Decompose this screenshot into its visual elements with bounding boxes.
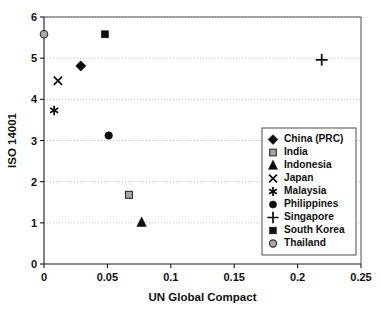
x-tick-label-5: 0.25 — [350, 271, 371, 283]
y-tick-label-2: 2 — [31, 176, 37, 188]
legend-label-china-prc: China (PRC) — [284, 133, 343, 144]
x-tick-label-3: 0.15 — [223, 271, 244, 283]
scatter-chart: 012345600.050.10.150.20.25UN Global Comp… — [0, 0, 381, 313]
legend-marker-philippines — [269, 201, 276, 208]
y-tick-label-6: 6 — [31, 11, 37, 23]
legend-marker-india — [270, 149, 277, 156]
y-tick-label-5: 5 — [31, 52, 37, 64]
legend-label-south-korea: South Korea — [284, 224, 345, 235]
legend-label-thailand: Thailand — [284, 237, 326, 248]
data-point-thailand — [40, 31, 48, 39]
data-point-india — [125, 191, 132, 198]
x-tick-label-0: 0 — [41, 271, 47, 283]
data-point-singapore — [316, 54, 328, 66]
x-tick-label-2: 0.1 — [163, 271, 178, 283]
x-axis-title: UN Global Compact — [149, 291, 257, 303]
data-point-philippines — [105, 132, 113, 140]
data-point-china-prc — [76, 61, 86, 71]
legend-label-malaysia: Malaysia — [284, 185, 327, 196]
legend-label-singapore: Singapore — [284, 211, 334, 222]
legend-marker-thailand — [269, 240, 276, 247]
y-axis-title: ISO 14001 — [6, 112, 18, 168]
legend-label-indonesia: Indonesia — [284, 159, 332, 170]
data-point-south-korea — [101, 31, 108, 38]
x-tick-label-1: 0.05 — [97, 271, 118, 283]
chart-canvas: 012345600.050.10.150.20.25UN Global Comp… — [0, 0, 381, 313]
x-tick-label-4: 0.2 — [290, 271, 305, 283]
legend-label-philippines: Philippines — [284, 198, 339, 209]
legend-label-india: India — [284, 146, 308, 157]
data-point-japan — [54, 77, 62, 85]
data-point-indonesia — [137, 217, 146, 227]
y-tick-label-0: 0 — [31, 258, 37, 270]
legend-label-japan: Japan — [284, 172, 313, 183]
data-point-malaysia — [50, 106, 58, 115]
legend-marker-south-korea — [270, 227, 277, 234]
y-tick-label-1: 1 — [31, 217, 37, 229]
y-tick-label-4: 4 — [31, 93, 38, 105]
y-tick-label-3: 3 — [31, 135, 37, 147]
